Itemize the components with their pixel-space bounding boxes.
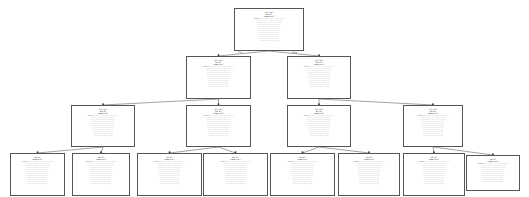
- node-value-array: value = [?, ?, ?, ?, ?, ?, ?, ?, ?, ?, ?…: [467, 163, 519, 183]
- node-value-array: value = [?, ?, ?, ?, ?, ?, ?, ?, ?, ?, ?…: [204, 161, 267, 186]
- node-value-array: value = [?, ?, ?, ?, ?, ?, ?, ?, ?, ?, ?…: [187, 115, 250, 138]
- tree-split-node: X[?] <= ?gini = ?samples = ?value = [?, …: [186, 56, 251, 99]
- tree-leaf-node: gini = ?samples = ?value = [?, ?, ?, ?, …: [270, 153, 335, 196]
- tree-leaf-node: gini = ?samples = ?value = [?, ?, ?, ?, …: [203, 153, 268, 196]
- tree-split-node: X[?] <= ?gini = ?samples = ?value = [?, …: [287, 56, 351, 99]
- tree-leaf-node: gini = ?samples = ?value = [?, ?, ?, ?, …: [466, 155, 520, 191]
- tree-leaf-node: gini = ?samples = ?value = [?, ?, ?, ?, …: [403, 153, 465, 196]
- tree-split-node: X[?] <= ?gini = ?samples = ?value = [?, …: [71, 105, 135, 147]
- tree-leaf-node: gini = ?samples = ?value = [?, ?, ?, ?, …: [137, 153, 202, 196]
- tree-split-node: X[?] <= ?gini = ?samples = ?value = [?, …: [234, 8, 304, 51]
- node-value-array: value = [?, ?, ?, ?, ?, ?, ?, ?, ?, ?, ?…: [73, 161, 129, 186]
- tree-split-node: X[?] <= ?gini = ?samples = ?value = [?, …: [403, 105, 463, 147]
- node-value-array: value = [?, ?, ?, ?, ?, ?, ?, ?, ?, ?, ?…: [404, 161, 464, 186]
- node-value-array: value = [?, ?, ?, ?, ?, ?, ?, ?, ?, ?, ?…: [339, 161, 399, 186]
- node-value-array: value = [?, ?, ?, ?, ?, ?, ?, ?, ?, ?, ?…: [288, 66, 350, 89]
- tree-leaf-node: gini = ?samples = ?value = [?, ?, ?, ?, …: [338, 153, 400, 196]
- node-value-array: value = [?, ?, ?, ?, ?, ?, ?, ?, ?, ?, ?…: [187, 66, 250, 89]
- node-value-array: value = [?, ?, ?, ?, ?, ?, ?, ?, ?, ?, ?…: [72, 115, 134, 138]
- node-value-array: value = [?, ?, ?, ?, ?, ?, ?, ?, ?, ?, ?…: [288, 115, 350, 138]
- node-value-array: value = [?, ?, ?, ?, ?, ?, ?, ?, ?, ?, ?…: [404, 115, 462, 138]
- tree-split-node: X[?] <= ?gini = ?samples = ?value = [?, …: [186, 105, 251, 147]
- tree-leaf-node: gini = ?samples = ?value = [?, ?, ?, ?, …: [10, 153, 65, 196]
- node-value-array: value = [?, ?, ?, ?, ?, ?, ?, ?, ?, ?, ?…: [271, 161, 334, 186]
- tree-split-node: X[?] <= ?gini = ?samples = ?value = [?, …: [287, 105, 351, 147]
- node-value-array: value = [?, ?, ?, ?, ?, ?, ?, ?, ?, ?, ?…: [138, 161, 201, 186]
- node-value-array: value = [?, ?, ?, ?, ?, ?, ?, ?, ?, ?, ?…: [11, 161, 64, 186]
- edge-label-false: False: [292, 51, 297, 53]
- edge-label-true: True: [238, 51, 242, 53]
- node-value-array: value = [?, ?, ?, ?, ?, ?, ?, ?, ?, ?, ?…: [235, 18, 303, 43]
- tree-leaf-node: gini = ?samples = ?value = [?, ?, ?, ?, …: [72, 153, 130, 196]
